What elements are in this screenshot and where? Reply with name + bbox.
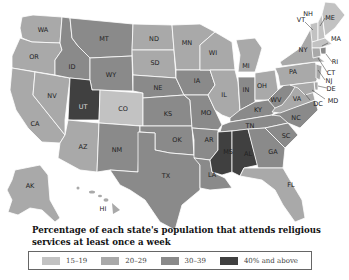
label-VA: VA [293,95,302,103]
label-NJ: NJ [326,77,333,85]
label-ME: ME [325,14,335,22]
state-CT [312,48,321,58]
label-WA: WA [38,26,49,34]
legend-label: 15–19 [66,257,87,265]
label-NE: NE [154,84,163,92]
label-IL: IL [221,91,227,99]
label-OK: OK [172,136,182,144]
label-CA: CA [31,120,41,128]
legend-item-30-39: 30–39 [161,257,206,265]
legend-label: 20–29 [125,257,146,265]
label-IA: IA [194,77,201,85]
label-MA: MA [331,35,342,43]
label-KY: KY [254,106,262,114]
legend-item-40-plus: 40% and above [220,257,298,265]
label-SD: SD [150,59,159,67]
label-MS: MS [223,148,233,156]
label-TN: TN [245,122,255,130]
label-DC: DC [313,100,323,108]
legend-label: 30–39 [185,257,206,265]
label-NH: NH [303,10,313,18]
label-AR: AR [205,136,214,144]
legend-label: 40% and above [244,257,298,265]
label-MI: MI [242,62,250,70]
state-HI [77,187,121,215]
label-ID: ID [69,63,76,71]
label-SC: SC [282,132,291,140]
label-NV: NV [47,92,57,100]
label-WY: WY [106,71,116,79]
state-AK [7,165,60,222]
label-CO: CO [118,105,128,113]
map-title: Percentage of each state's population th… [32,224,332,248]
legend-item-15-19: 15–19 [42,257,87,265]
legend: 15–19 20–29 30–39 40% and above [28,251,312,270]
label-ND: ND [149,35,159,43]
label-GA: GA [268,148,278,156]
label-AK: AK [26,182,35,190]
state-NJ [316,64,322,80]
label-TX: TX [161,172,171,180]
label-MD: MD [328,97,339,105]
legend-swatch [42,257,60,265]
label-IN: IN [243,86,250,94]
label-OR: OR [29,53,39,61]
map-title-line2: services at least once a week [32,236,332,248]
legend-swatch [161,257,179,265]
label-DE: DE [326,85,335,93]
label-KS: KS [164,110,172,118]
label-NM: NM [112,146,122,154]
label-WI: WI [209,49,217,57]
label-HI: HI [100,205,107,213]
label-MT: MT [99,35,109,43]
label-AZ: AZ [79,143,88,151]
label-LA: LA [208,171,217,179]
label-NC: NC [291,114,301,122]
legend-swatch [220,257,238,265]
label-MO: MO [201,109,212,117]
label-UT: UT [79,103,88,111]
label-AL: AL [244,150,252,158]
state-FL [240,168,305,222]
label-RI: RI [332,58,339,66]
map-title-line1: Percentage of each state's population th… [32,224,332,236]
label-NY: NY [299,46,308,54]
legend-item-20-29: 20–29 [101,257,146,265]
label-WV: WV [271,96,282,104]
label-CT: CT [327,69,336,77]
label-MN: MN [182,39,193,47]
us-choropleth-map: WA OR CA NV ID MT WY UT CO AZ NM ND SD N… [0,0,349,240]
label-OH: OH [257,82,267,90]
legend-swatch [101,257,119,265]
label-FL: FL [287,181,295,189]
label-PA: PA [289,68,298,76]
